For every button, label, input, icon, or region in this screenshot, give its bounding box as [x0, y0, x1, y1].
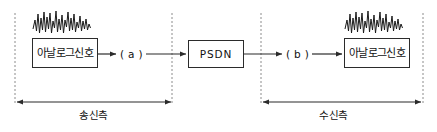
port-label-b: ( b ) — [286, 49, 309, 60]
node-analog-source[interactable]: 아날로그신호 — [32, 38, 98, 68]
diagram-canvas: 아날로그신호 PSDN 아날로그신호 ( a ) ( b ) 송신측 수신측 — [0, 0, 437, 132]
node-analog-source-label: 아날로그신호 — [37, 48, 93, 59]
node-psdn[interactable]: PSDN — [188, 40, 244, 68]
node-psdn-label: PSDN — [200, 49, 233, 60]
node-analog-sink[interactable]: 아날로그신호 — [344, 38, 410, 68]
span-label-receive-side: 수신측 — [319, 110, 348, 121]
span-label-transmit-side: 송신측 — [79, 110, 108, 121]
waveform-source-icon — [33, 11, 91, 33]
node-analog-sink-label: 아날로그신호 — [349, 48, 405, 59]
port-label-a: ( a ) — [120, 49, 143, 60]
waveform-sink-icon — [345, 11, 403, 33]
